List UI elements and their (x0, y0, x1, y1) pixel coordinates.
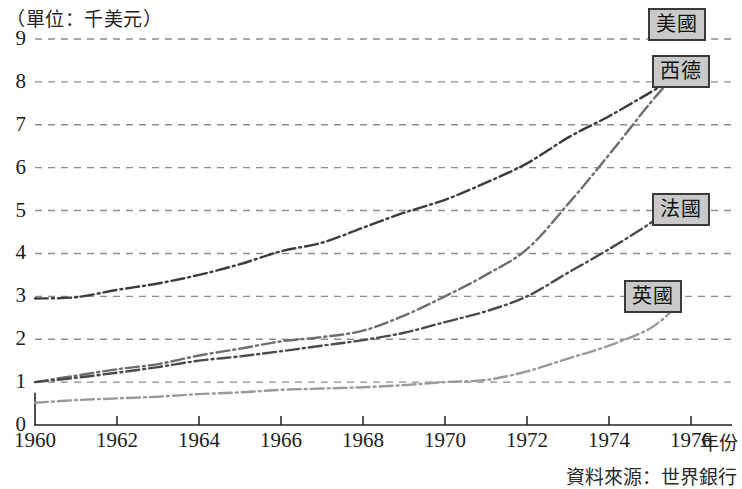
series-label-uk: 英國 (624, 280, 682, 313)
x-tick-label-1972: 1972 (506, 430, 548, 451)
x-tick-label-1964: 1964 (178, 430, 220, 451)
y-tick-label-5: 5 (0, 200, 26, 221)
y-tick-label-8: 8 (0, 71, 26, 92)
y-tick-label-4: 4 (0, 242, 26, 263)
series-line-3 (35, 308, 675, 402)
x-tick-label-1974: 1974 (588, 430, 630, 451)
y-tick-label-3: 3 (0, 285, 26, 306)
x-tick-label-1960: 1960 (14, 430, 56, 451)
series-label-west-germany: 西德 (652, 55, 710, 88)
y-tick-label-9: 9 (0, 28, 26, 49)
y-tick-label-6: 6 (0, 157, 26, 178)
source-note: 資料來源：世界銀行 (566, 462, 737, 489)
series-line-1 (35, 75, 675, 382)
y-tick-label-7: 7 (0, 114, 26, 135)
x-tick-label-1968: 1968 (342, 430, 384, 451)
y-tick-label-1: 1 (0, 371, 26, 392)
y-tick-label-2: 2 (0, 328, 26, 349)
gridlines-group (35, 39, 732, 382)
x-axis-title: 年份 (700, 428, 738, 455)
x-tick-label-1966: 1966 (260, 430, 302, 451)
series-label-france: 法國 (652, 193, 710, 226)
x-tick-label-1970: 1970 (424, 430, 466, 451)
series-label-us: 美國 (648, 8, 706, 41)
x-tick-label-1962: 1962 (96, 430, 138, 451)
x-tick-marks-group (117, 416, 691, 425)
